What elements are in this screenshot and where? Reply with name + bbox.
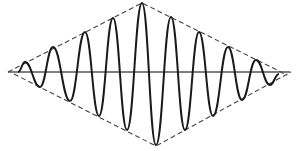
modulated-wave <box>18 3 279 145</box>
diagram-svg <box>0 0 299 151</box>
wave-packet-diagram <box>0 0 299 151</box>
